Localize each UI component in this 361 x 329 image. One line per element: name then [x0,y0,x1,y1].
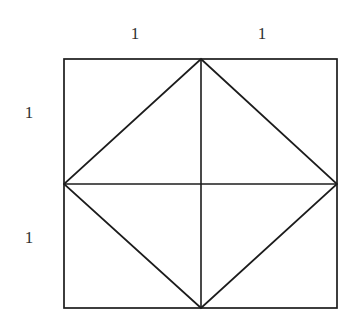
dimension-label-left-upper: 1 [19,104,39,121]
dimension-label-left-lower: 1 [19,229,39,246]
geometry-figure: 1 1 1 1 [0,0,361,329]
dimension-label-top-right: 1 [252,25,272,42]
dimension-label-top-left: 1 [125,25,145,42]
figure-canvas [0,0,361,329]
